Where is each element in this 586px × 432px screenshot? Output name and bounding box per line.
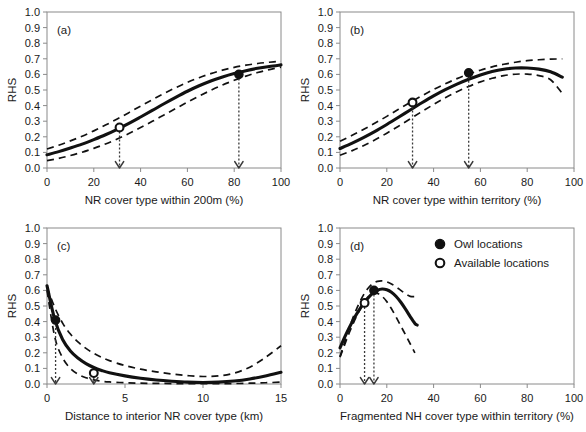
legend: Owl locationsAvailable locations — [435, 238, 549, 269]
owl-location-marker — [235, 70, 243, 78]
confidence-band-line — [47, 287, 281, 376]
panel-label: (c) — [57, 240, 71, 252]
y-tick-label: 0.8 — [318, 253, 333, 265]
y-tick-label: 0.2 — [318, 131, 333, 143]
x-tick-label: 100 — [565, 176, 583, 188]
y-tick-label: 0.1 — [318, 146, 333, 158]
confidence-band-line — [47, 67, 281, 161]
x-tick-label: 10 — [197, 392, 209, 404]
x-tick-label: 100 — [272, 176, 290, 188]
y-tick-label: 0.0 — [318, 162, 333, 174]
y-tick-label: 0.4 — [25, 100, 40, 112]
dropline-arrowhead-icon — [408, 162, 416, 169]
confidence-band-line — [340, 59, 562, 141]
x-axis-title: NR cover type within 200m (%) — [85, 194, 244, 206]
confidence-band-line — [47, 290, 281, 383]
y-tick-label: 0.6 — [318, 284, 333, 296]
y-tick-label: 0.7 — [318, 53, 333, 65]
y-tick-label: 0.1 — [25, 146, 40, 158]
y-tick-label: 0.2 — [25, 131, 40, 143]
y-axis-title: RHS — [299, 78, 311, 103]
y-tick-label: 0.9 — [318, 238, 333, 250]
x-axis-title: NR cover type within territory (%) — [373, 194, 542, 206]
panel-label: (a) — [57, 24, 71, 36]
x-tick-label: 5 — [122, 392, 128, 404]
y-tick-label: 0.4 — [25, 316, 40, 328]
rhs-curve — [47, 286, 281, 383]
panel-b-content: 0.00.10.20.30.40.50.60.70.80.91.00204060… — [299, 6, 583, 206]
rhs-curve — [47, 65, 281, 155]
y-tick-label: 0.7 — [318, 269, 333, 281]
rhs-curve — [340, 68, 562, 149]
owl-location-marker — [51, 316, 59, 324]
figure-panel-grid: 0.00.10.20.30.40.50.60.70.80.91.00204060… — [0, 0, 586, 432]
x-tick-label: 40 — [427, 176, 439, 188]
y-tick-label: 0.4 — [318, 100, 333, 112]
available-location-marker — [409, 99, 417, 107]
plot-frame — [340, 12, 574, 168]
y-tick-label: 0.8 — [25, 253, 40, 265]
panel-label: (d) — [350, 240, 364, 252]
y-tick-label: 0.5 — [25, 84, 40, 96]
x-tick-label: 20 — [88, 176, 100, 188]
x-tick-label: 15 — [275, 392, 287, 404]
y-tick-label: 0.3 — [318, 115, 333, 127]
x-tick-label: 0 — [44, 392, 50, 404]
y-tick-label: 1.0 — [25, 6, 40, 18]
y-tick-label: 0.6 — [318, 68, 333, 80]
legend-owl-marker-icon — [435, 239, 444, 248]
y-tick-label: 0.9 — [25, 22, 40, 34]
x-tick-label: 60 — [474, 176, 486, 188]
y-tick-label: 0.0 — [25, 162, 40, 174]
chart-panel-d: 0.00.10.20.30.40.50.60.70.80.91.00204060… — [293, 216, 586, 432]
x-tick-label: 20 — [381, 176, 393, 188]
chart-panel-a: 0.00.10.20.30.40.50.60.70.80.91.00204060… — [0, 0, 293, 216]
x-tick-label: 80 — [228, 176, 240, 188]
x-tick-label: 0 — [337, 176, 343, 188]
y-tick-label: 0.7 — [25, 53, 40, 65]
y-tick-label: 0.9 — [318, 22, 333, 34]
x-tick-label: 100 — [565, 392, 583, 404]
available-location-marker — [90, 369, 98, 377]
y-tick-label: 0.5 — [318, 84, 333, 96]
x-axis-title: Fragmented NH cover type within territor… — [340, 410, 574, 422]
panel-c-svg: 0.00.10.20.30.40.50.60.70.80.91.0051015(… — [0, 216, 293, 432]
y-tick-label: 1.0 — [25, 222, 40, 234]
x-tick-label: 40 — [134, 176, 146, 188]
x-tick-label: 60 — [181, 176, 193, 188]
y-tick-label: 0.1 — [25, 362, 40, 374]
y-tick-label: 0.7 — [25, 269, 40, 281]
y-axis-title: RHS — [6, 294, 18, 319]
y-tick-label: 0.3 — [25, 331, 40, 343]
x-tick-label: 40 — [427, 392, 439, 404]
y-tick-label: 0.5 — [318, 300, 333, 312]
x-tick-label: 0 — [44, 176, 50, 188]
y-tick-label: 0.6 — [25, 284, 40, 296]
panel-label: (b) — [350, 24, 364, 36]
x-tick-label: 80 — [521, 176, 533, 188]
panel-d-svg: 0.00.10.20.30.40.50.60.70.80.91.00204060… — [293, 216, 586, 432]
panel-a-content: 0.00.10.20.30.40.50.60.70.80.91.00204060… — [6, 6, 290, 206]
y-tick-label: 0.0 — [25, 378, 40, 390]
x-tick-label: 80 — [521, 392, 533, 404]
legend-item-label: Available locations — [454, 257, 549, 269]
y-tick-label: 0.6 — [25, 68, 40, 80]
plot-frame — [340, 228, 574, 384]
y-tick-label: 0.4 — [318, 316, 333, 328]
y-tick-label: 1.0 — [318, 6, 333, 18]
y-axis-title: RHS — [6, 78, 18, 103]
available-location-marker — [116, 124, 124, 132]
chart-panel-c: 0.00.10.20.30.40.50.60.70.80.91.0051015(… — [0, 216, 293, 432]
available-location-marker — [361, 299, 369, 307]
owl-location-marker — [370, 286, 378, 294]
y-tick-label: 0.9 — [25, 238, 40, 250]
y-tick-label: 0.2 — [25, 347, 40, 359]
x-tick-label: 60 — [474, 392, 486, 404]
y-tick-label: 0.3 — [318, 331, 333, 343]
y-axis-title: RHS — [299, 294, 311, 319]
rhs-curve — [340, 289, 417, 348]
x-tick-label: 0 — [337, 392, 343, 404]
panel-d-content: 0.00.10.20.30.40.50.60.70.80.91.00204060… — [299, 222, 583, 422]
y-tick-label: 0.0 — [318, 378, 333, 390]
y-tick-label: 0.2 — [318, 347, 333, 359]
